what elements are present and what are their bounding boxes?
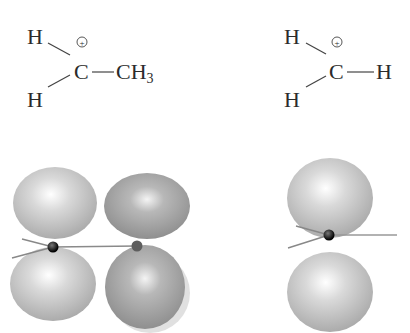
methyl-cation-orbital-model	[287, 158, 397, 332]
atom-c-center: C	[74, 59, 89, 84]
carbon-atom-methyl	[132, 241, 143, 252]
sigma-orbital-lobe-upper-right	[104, 173, 190, 239]
atom-h-top: H	[27, 24, 43, 49]
p-orbital-lobe-lower	[287, 252, 373, 332]
p-orbital-lobe-upper	[287, 158, 373, 238]
bond-line	[288, 235, 329, 248]
p-orbital-lobe-upper-left	[13, 167, 97, 239]
bond-h-top	[306, 43, 326, 54]
bond-h-top	[48, 43, 70, 55]
methyl-cation-structure: H H + C H	[284, 24, 392, 112]
carbon-atom-cationic	[48, 242, 59, 253]
atom-h-right: H	[376, 59, 392, 84]
sigma-orbital-lobe-lower-right	[105, 245, 185, 329]
p-orbital-lobe-lower-left	[10, 247, 96, 321]
ethyl-cation-structure: H H + C CH3	[27, 24, 154, 112]
bond-h-bottom	[48, 75, 70, 87]
c-c-bond-line	[53, 246, 137, 247]
charge-sign: +	[79, 38, 84, 48]
carbon-atom	[324, 230, 335, 241]
charge-sign: +	[334, 38, 339, 48]
atom-c-center: C	[329, 59, 344, 84]
diagram-canvas: H H + C CH3 H H + C H	[0, 0, 410, 333]
substituent-ch3: CH3	[116, 59, 154, 86]
ethyl-cation-orbital-model	[10, 167, 190, 333]
atom-h-bottom: H	[27, 87, 43, 112]
atom-h-top: H	[284, 24, 300, 49]
atom-h-bottom: H	[284, 87, 300, 112]
bond-h-bottom	[306, 76, 326, 87]
